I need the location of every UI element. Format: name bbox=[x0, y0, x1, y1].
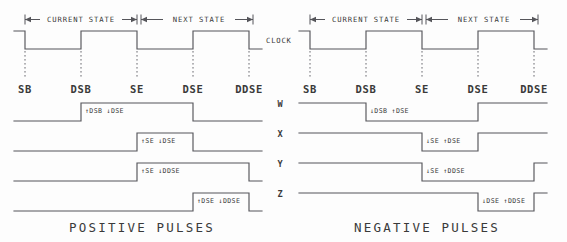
annotation-w: ↑DSB ↓DSE bbox=[85, 107, 124, 115]
time-marker-ddse: DDSE bbox=[520, 83, 548, 95]
caption-negative-pulses: NEGATIVE PULSES bbox=[354, 220, 500, 235]
waveform-row-y: ↑SE ↓DDSE bbox=[14, 163, 262, 181]
time-marker-labels: SB DSB SE DSE DDSE bbox=[303, 83, 548, 95]
annotation-x: ↑SE ↓DSE bbox=[141, 137, 176, 145]
dimension-next-state: NEXT STATE bbox=[141, 15, 253, 25]
time-marker-ddse: DDSE bbox=[235, 83, 263, 95]
row-label-y: Y bbox=[277, 159, 283, 169]
time-marker-sb: SB bbox=[18, 83, 32, 95]
center-labels: CLOCK W X Y Z bbox=[266, 36, 292, 199]
row-label-z: Z bbox=[277, 189, 282, 199]
waveform-row-y: ↓SE ↑DDSE bbox=[299, 163, 547, 181]
time-marker-se: SE bbox=[130, 83, 144, 95]
dimension-label-next-state: NEXT STATE bbox=[173, 15, 225, 24]
annotation-x: ↓SE ↑DSE bbox=[426, 137, 461, 145]
timing-diagram: CURRENT STATE NEXT STATE SB DSB SE bbox=[0, 0, 567, 242]
panel-negative: CURRENT STATE NEXT STATE SB DSB SE bbox=[299, 15, 548, 236]
panel-positive: CURRENT STATE NEXT STATE SB DSB SE bbox=[14, 15, 263, 236]
row-label-w: W bbox=[277, 99, 283, 109]
waveform-row-z: ↑DSE ↓DDSE bbox=[14, 193, 262, 211]
caption-positive-pulses: POSITIVE PULSES bbox=[69, 220, 215, 235]
row-label-x: X bbox=[277, 129, 283, 139]
dimension-label-current-state: CURRENT STATE bbox=[47, 15, 115, 24]
annotation-z: ↓DSE ↑DDSE bbox=[482, 197, 525, 205]
time-marker-dse: DSE bbox=[468, 83, 489, 95]
clock-label: CLOCK bbox=[266, 36, 292, 45]
time-marker-dsb: DSB bbox=[71, 83, 92, 95]
dimension-current-state: CURRENT STATE bbox=[25, 15, 137, 25]
clock-waveform bbox=[14, 31, 262, 49]
annotation-z: ↑DSE ↓DDSE bbox=[197, 197, 240, 205]
time-marker-labels: SB DSB SE DSE DDSE bbox=[18, 83, 263, 95]
time-guides bbox=[25, 51, 249, 77]
waveform-row-x: ↑SE ↓DSE bbox=[14, 133, 262, 151]
annotation-w: ↓DSB ↑DSE bbox=[370, 107, 409, 115]
time-marker-dse: DSE bbox=[183, 83, 204, 95]
clock-waveform bbox=[299, 31, 547, 49]
time-marker-dsb: DSB bbox=[356, 83, 377, 95]
annotation-y: ↑SE ↓DDSE bbox=[141, 167, 180, 175]
time-guides bbox=[310, 51, 534, 77]
dimension-label-current-state: CURRENT STATE bbox=[332, 15, 400, 24]
annotation-y: ↓SE ↑DDSE bbox=[426, 167, 465, 175]
time-marker-se: SE bbox=[415, 83, 429, 95]
dimension-label-next-state: NEXT STATE bbox=[458, 15, 510, 24]
waveform-row-z: ↓DSE ↑DDSE bbox=[299, 193, 547, 211]
diagram-canvas: CURRENT STATE NEXT STATE SB DSB SE bbox=[0, 0, 567, 242]
waveform-row-w: ↑DSB ↓DSE bbox=[14, 103, 262, 121]
waveform-row-x: ↓SE ↑DSE bbox=[299, 133, 547, 151]
waveform-row-w: ↓DSB ↑DSE bbox=[299, 103, 547, 121]
dimension-next-state: NEXT STATE bbox=[426, 15, 538, 25]
time-marker-sb: SB bbox=[303, 83, 317, 95]
dimension-current-state: CURRENT STATE bbox=[310, 15, 422, 25]
